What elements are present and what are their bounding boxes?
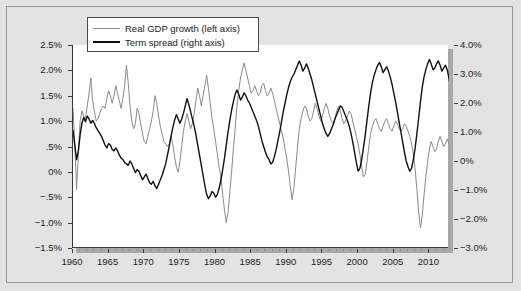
- x-axis-minor-tick: [193, 249, 194, 251]
- y-axis-left-tick-label: 2.5%: [0, 40, 62, 50]
- x-axis-minor-tick: [436, 249, 437, 251]
- x-axis-minor-tick: [79, 249, 80, 251]
- legend-label: Real GDP growth (left axis): [125, 23, 240, 34]
- y-axis-right-tick: [454, 219, 458, 220]
- x-axis-minor-tick: [129, 249, 130, 251]
- x-axis-minor-tick: [336, 249, 337, 251]
- x-axis-minor-tick: [86, 249, 87, 251]
- x-axis-minor-tick: [272, 249, 273, 251]
- x-axis-minor-tick: [443, 249, 444, 251]
- y-axis-right-tick-label: 1.0%: [460, 127, 482, 137]
- x-axis-minor-tick: [158, 249, 159, 251]
- x-axis-minor-tick: [236, 249, 237, 251]
- chart-figure: 2.5%2.0%1.5%1.0%.5%0%−.5%−1.0%−1.5% 4.0%…: [0, 0, 521, 291]
- plot-wrapper: [72, 45, 448, 248]
- x-axis-minor-tick: [343, 249, 344, 251]
- y-axis-right-tick: [454, 248, 458, 249]
- x-axis-tick-label: 1995: [301, 257, 341, 267]
- y-axis-right-tick-label: −2.0%: [460, 214, 487, 224]
- x-axis-minor-tick: [165, 249, 166, 251]
- x-axis-tick-label: 2000: [337, 257, 377, 267]
- x-axis-major-tick: [286, 249, 287, 253]
- y-axis-right-tick: [454, 161, 458, 162]
- x-axis-minor-tick: [136, 249, 137, 251]
- y-axis-right-tick-label: 4.0%: [460, 40, 482, 50]
- x-axis-major-tick: [215, 249, 216, 253]
- y-axis-right-tick: [454, 74, 458, 75]
- y-axis-left-tick-label: −1.5%: [0, 243, 62, 253]
- y-axis-right-tick-label: −3.0%: [460, 243, 487, 253]
- x-axis-minor-tick: [229, 249, 230, 251]
- y-axis-left-tick-label: 1.5%: [0, 91, 62, 101]
- series-lines: [73, 45, 449, 248]
- x-axis-major-tick: [250, 249, 251, 253]
- x-axis-minor-tick: [207, 249, 208, 251]
- legend-label: Term spread (right axis): [125, 37, 225, 48]
- y-axis-left-tick-label: −.5%: [0, 192, 62, 202]
- x-axis-minor-tick: [421, 249, 422, 251]
- x-axis-tick-label: 1965: [88, 257, 128, 267]
- x-axis-minor-tick: [115, 249, 116, 251]
- x-axis-minor-tick: [364, 249, 365, 251]
- x-axis-minor-tick: [279, 249, 280, 251]
- x-axis-minor-tick: [122, 249, 123, 251]
- x-axis-major-tick: [72, 249, 73, 253]
- x-axis-minor-tick: [93, 249, 94, 251]
- x-axis-tick-label: 1985: [230, 257, 270, 267]
- x-axis-major-tick: [393, 249, 394, 253]
- x-axis-minor-tick: [350, 249, 351, 251]
- x-axis-minor-tick: [371, 249, 372, 251]
- y-axis-left-tick-label: 1.0%: [0, 116, 62, 126]
- y-axis-right-tick: [454, 45, 458, 46]
- x-axis-minor-tick: [101, 249, 102, 251]
- x-axis-major-tick: [143, 249, 144, 253]
- legend-line-swatch-icon: [93, 24, 120, 32]
- y-axis-right-tick: [454, 190, 458, 191]
- chart-legend: Real GDP growth (left axis) Term spread …: [87, 17, 259, 52]
- x-axis-minor-tick: [314, 249, 315, 251]
- y-axis-left-tick-label: 0%: [0, 167, 62, 177]
- x-axis-tick-label: 1980: [195, 257, 235, 267]
- x-axis-tick-label: 1990: [266, 257, 306, 267]
- x-axis-tick-label: 2010: [408, 257, 448, 267]
- x-axis-minor-tick: [300, 249, 301, 251]
- x-axis-minor-tick: [307, 249, 308, 251]
- y-axis-right-tick-label: 2.0%: [460, 98, 482, 108]
- x-axis-minor-tick: [379, 249, 380, 251]
- y-axis-right-tick-label: 3.0%: [460, 69, 482, 79]
- y-axis-left-tick-label: 2.0%: [0, 65, 62, 75]
- x-axis-minor-tick: [150, 249, 151, 251]
- legend-line-swatch-icon: [93, 38, 120, 46]
- plot-area: [72, 45, 448, 248]
- x-axis-minor-tick: [243, 249, 244, 251]
- legend-item-term-spread: Term spread (right axis): [93, 35, 253, 49]
- x-axis-minor-tick: [222, 249, 223, 251]
- x-axis-major-tick: [108, 249, 109, 253]
- y-axis-right-tick: [454, 103, 458, 104]
- y-axis-right-tick: [454, 132, 458, 133]
- x-axis-minor-tick: [407, 249, 408, 251]
- y-axis-right-tick-label: 0%: [460, 156, 474, 166]
- x-axis-major-tick: [179, 249, 180, 253]
- x-axis-minor-tick: [386, 249, 387, 251]
- y-axis-right-tick-label: −1.0%: [460, 185, 487, 195]
- x-axis-tick-label: 1975: [159, 257, 199, 267]
- x-axis-tick-label: 1960: [52, 257, 92, 267]
- y-axis-left-tick-label: .5%: [0, 142, 62, 152]
- x-axis-minor-tick: [200, 249, 201, 251]
- x-axis-minor-tick: [264, 249, 265, 251]
- x-axis-tick-label: 2005: [373, 257, 413, 267]
- x-axis-minor-tick: [172, 249, 173, 251]
- x-axis-major-tick: [321, 249, 322, 253]
- x-axis-minor-tick: [186, 249, 187, 251]
- x-axis-minor-tick: [414, 249, 415, 251]
- legend-item-real-gdp-growth: Real GDP growth (left axis): [93, 21, 253, 35]
- x-axis-major-tick: [357, 249, 358, 253]
- y-axis-left-tick-label: −1.0%: [0, 218, 62, 228]
- x-axis-major-tick: [428, 249, 429, 253]
- x-axis-minor-tick: [329, 249, 330, 251]
- x-axis-minor-tick: [400, 249, 401, 251]
- x-axis-minor-tick: [257, 249, 258, 251]
- x-axis-tick-label: 1970: [123, 257, 163, 267]
- x-axis-minor-tick: [293, 249, 294, 251]
